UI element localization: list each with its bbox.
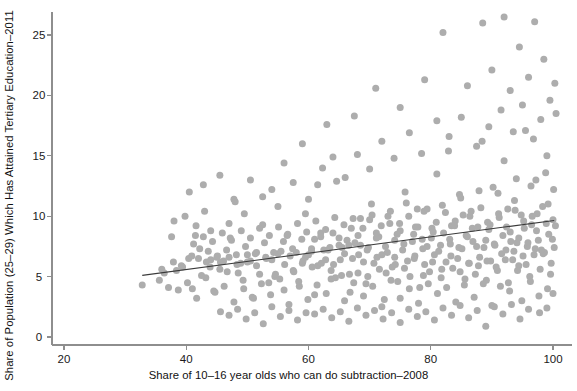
plot-canvas: 204060801000510152025 [0,0,577,391]
data-point [553,110,560,117]
data-point [535,292,542,299]
data-point [494,190,501,197]
data-point [188,253,195,260]
data-point [186,189,193,196]
data-point [298,236,305,243]
data-point [258,280,265,287]
data-point [226,254,233,261]
y-tick-label: 20 [33,89,46,101]
data-point [308,248,315,255]
data-point [397,319,404,326]
data-point [509,256,516,263]
data-point [289,245,296,252]
data-point [442,209,449,216]
data-point [323,121,330,128]
data-point [422,308,429,315]
data-point [360,292,367,299]
data-point [345,318,352,325]
data-point [247,234,254,241]
data-point [378,303,385,310]
data-point [433,170,440,177]
data-point [383,269,390,276]
data-point [485,123,492,130]
data-point [518,297,525,304]
data-point [372,85,379,92]
data-point [516,44,523,51]
data-point [355,232,362,239]
data-point [224,268,231,275]
scatter-plot-figure: 204060801000510152025 Share of 10–16 yea… [0,0,577,391]
data-point [294,317,301,324]
data-point [457,268,464,275]
data-point [479,138,486,145]
data-point [216,172,223,179]
data-point [371,307,378,314]
data-point [518,211,525,218]
data-point [421,76,428,83]
data-point [370,260,377,267]
data-point [168,233,175,240]
data-point [366,166,373,173]
data-point [277,248,284,255]
data-point [461,276,468,283]
data-point [284,231,291,238]
data-point [479,19,486,26]
data-point [369,211,376,218]
data-point [483,257,490,264]
data-point [482,323,489,330]
data-point [381,296,388,303]
data-point [319,164,326,171]
data-point [499,311,506,318]
data-point [532,245,539,252]
data-point [249,294,256,301]
data-point [391,254,398,261]
data-point [270,249,277,256]
data-point [303,228,310,235]
data-point [480,244,487,251]
data-point [449,265,456,272]
data-point [340,221,347,228]
data-point [464,82,471,89]
data-point [446,236,453,243]
data-point [201,208,208,215]
data-point [357,215,364,222]
data-point [170,259,177,266]
data-point [156,277,163,284]
data-point [466,213,473,220]
data-point [337,256,344,263]
data-point [434,290,441,297]
data-point [373,230,380,237]
data-point [550,290,557,297]
data-point [516,315,523,322]
data-point [396,220,403,227]
data-point [373,254,380,261]
data-point [311,291,318,298]
data-point [234,306,241,313]
data-point [237,260,244,267]
y-tick-label: 25 [33,29,46,41]
data-point [364,247,371,254]
data-point [531,251,538,258]
data-point [411,255,418,262]
data-point [305,196,312,203]
data-point [281,160,288,167]
data-point [200,181,207,188]
data-point [247,176,254,183]
data-point [388,277,395,284]
data-point [528,183,535,190]
data-point [415,300,422,307]
data-point [510,248,517,255]
data-point [341,250,348,257]
data-point [228,237,235,244]
data-point [309,263,316,270]
data-point [360,259,367,266]
data-point [543,152,550,159]
data-point [376,266,383,273]
data-point [354,305,361,312]
data-point [355,269,362,276]
data-point [519,102,526,109]
data-point [405,213,412,220]
data-point [221,283,228,290]
data-point [320,247,327,254]
data-point [322,226,329,233]
